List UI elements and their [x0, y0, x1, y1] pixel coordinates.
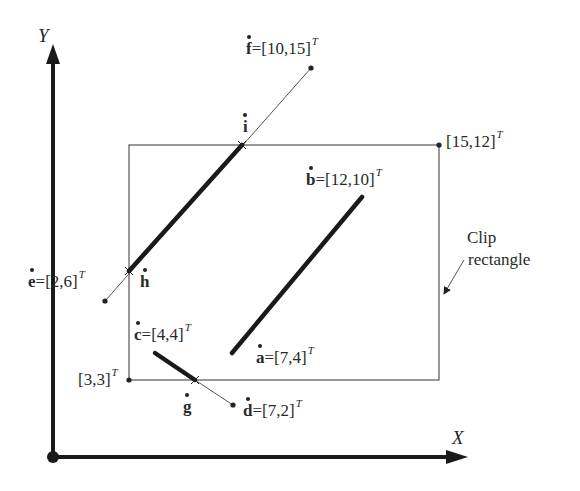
clip-rectangle-label-line1: Clip — [467, 229, 496, 246]
label-point-a: a=[7,4]T — [256, 349, 314, 366]
point-b-value: =[12,10] — [315, 170, 374, 189]
point-d-dot — [230, 402, 235, 407]
clip-rectangle — [129, 145, 439, 380]
point-e-name: e — [28, 273, 36, 290]
point-i-name: i — [243, 118, 248, 135]
point-d-name: d — [243, 402, 252, 419]
segment-a-b — [232, 197, 362, 353]
label-clip-max-corner: [15,12]T — [446, 133, 503, 150]
point-c-name: c — [134, 326, 142, 343]
point-f-name: f — [246, 40, 252, 57]
point-f-value: =[10,15] — [252, 39, 311, 58]
point-d-value: =[7,2] — [252, 401, 294, 420]
point-e-dot — [102, 298, 107, 303]
segment-h-i-clipped — [129, 145, 242, 271]
label-point-g: g — [183, 398, 192, 415]
label-point-c: c=[4,4]T — [134, 326, 191, 343]
label-clip-min-corner: [3,3]T — [78, 371, 118, 388]
point-c-value: =[4,4] — [142, 325, 184, 344]
y-axis — [46, 44, 60, 457]
clip-label-pointer — [444, 260, 464, 294]
label-point-f: f=[10,15]T — [246, 40, 318, 57]
clip-corner-max-dot — [436, 142, 441, 147]
label-point-b: b=[12,10]T — [306, 171, 382, 188]
clip-corner-min-dot — [126, 377, 131, 382]
x-axis-label: X — [452, 428, 464, 447]
point-a-value: =[7,4] — [265, 348, 307, 367]
point-g-name: g — [183, 398, 192, 415]
origin-dot — [47, 451, 59, 463]
point-e-value: =[2,6] — [36, 272, 78, 291]
label-point-h: h — [140, 273, 149, 290]
point-b-name: b — [306, 171, 315, 188]
point-a-name: a — [256, 349, 265, 366]
segment-c-g-clipped — [155, 353, 195, 380]
point-f-dot — [308, 65, 313, 70]
clip-rectangle-label-line2: rectangle — [468, 251, 530, 268]
point-h-name: h — [140, 273, 149, 290]
segment-g-d-thin — [195, 380, 233, 405]
x-axis — [53, 450, 468, 464]
transpose-sup: T — [312, 35, 318, 47]
label-point-d: d=[7,2]T — [243, 402, 302, 419]
label-point-e: e=[2,6]T — [28, 273, 85, 290]
y-axis-label: Y — [38, 26, 49, 45]
label-point-i: i — [243, 118, 248, 135]
